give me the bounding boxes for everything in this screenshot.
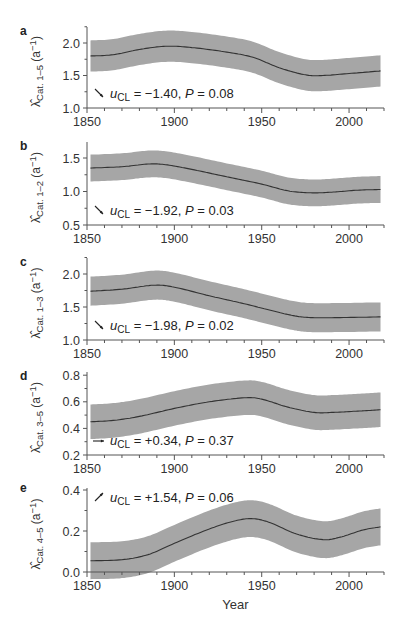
- trend-annotation: uCL = −1.92, P = 0.03: [95, 203, 234, 220]
- panel-c: 1.01.52.01850190019502000λ̂Cat. 1–3 (a−1…: [20, 255, 384, 361]
- x-tick-label: 1900: [160, 347, 188, 361]
- svg-text:uCL = +1.54, P = 0.06: uCL = +1.54, P = 0.06: [110, 490, 234, 507]
- x-tick-label: 1850: [73, 232, 101, 246]
- y-tick-label: 1.0: [63, 185, 80, 199]
- x-tick-label: 1900: [160, 579, 188, 593]
- confidence-band: [91, 31, 381, 92]
- panel-e: 0.00.20.41850190019502000λ̂Cat. 4–5 (a−1…: [20, 481, 384, 593]
- figure: 1.01.52.01850190019502000λ̂Cat. 1–5 (a−1…: [0, 0, 403, 631]
- x-tick-label: 1950: [248, 115, 276, 129]
- x-tick-label: 1850: [73, 579, 101, 593]
- x-tick-label: 1850: [73, 462, 101, 476]
- svg-text:uCL = −1.92, P = 0.03: uCL = −1.92, P = 0.03: [110, 203, 234, 220]
- y-axis-label: λ̂Cat. 1–2 (a−1): [27, 152, 45, 223]
- x-axis-title: Year: [222, 597, 249, 612]
- trend-annotation: uCL = +0.34, P = 0.37: [93, 433, 234, 450]
- y-tick-label: 0.4: [63, 484, 80, 498]
- panel-b: 0.51.01.51850190019502000λ̂Cat. 1–2 (a−1…: [20, 139, 384, 246]
- y-tick-label: 0.5: [63, 219, 80, 233]
- x-tick-label: 2000: [335, 579, 363, 593]
- panel-letter: d: [20, 369, 27, 383]
- y-tick-label: 1.5: [63, 301, 80, 315]
- y-tick-label: 0.2: [63, 449, 80, 463]
- panel-letter: e: [20, 481, 27, 495]
- confidence-band: [91, 500, 381, 579]
- y-tick-label: 1.5: [63, 152, 80, 166]
- y-tick-label: 0.6: [63, 395, 80, 409]
- x-tick-label: 2000: [335, 115, 363, 129]
- y-tick-label: 0.0: [63, 566, 80, 580]
- x-tick-label: 1950: [248, 462, 276, 476]
- y-tick-label: 2.0: [63, 268, 80, 282]
- x-tick-label: 1950: [248, 347, 276, 361]
- panel-d: 0.20.40.60.81850190019502000λ̂Cat. 3–5 (…: [20, 369, 384, 476]
- y-tick-label: 1.5: [63, 69, 80, 83]
- panel-letter: a: [20, 24, 27, 38]
- y-axis-label: λ̂Cat. 1–5 (a−1): [27, 36, 45, 107]
- y-tick-label: 1.0: [63, 102, 80, 116]
- y-tick-label: 0.2: [63, 525, 80, 539]
- trend-annotation: uCL = −1.98, P = 0.02: [95, 318, 234, 335]
- x-tick-label: 2000: [335, 347, 363, 361]
- y-tick-label: 2.0: [63, 37, 80, 51]
- panel-letter: b: [20, 139, 27, 153]
- trend-annotation: uCL = −1.40, P = 0.08: [95, 86, 234, 103]
- x-tick-label: 1900: [160, 232, 188, 246]
- y-tick-label: 0.4: [63, 422, 80, 436]
- x-tick-label: 1900: [160, 462, 188, 476]
- panel-letter: c: [20, 255, 27, 269]
- y-axis-label: λ̂Cat. 4–5 (a−1): [27, 499, 45, 570]
- svg-text:uCL = −1.40, P = 0.08: uCL = −1.40, P = 0.08: [110, 86, 234, 103]
- x-tick-label: 2000: [335, 462, 363, 476]
- x-tick-label: 2000: [335, 232, 363, 246]
- y-axis-label: λ̂Cat. 1–3 (a−1): [27, 268, 45, 339]
- x-tick-label: 1850: [73, 115, 101, 129]
- y-axis-label: λ̂Cat. 3–5 (a−1): [27, 382, 45, 453]
- confidence-band: [91, 380, 381, 439]
- x-tick-label: 1950: [248, 232, 276, 246]
- panel-a: 1.01.52.01850190019502000λ̂Cat. 1–5 (a−1…: [20, 24, 384, 129]
- y-tick-label: 0.8: [63, 369, 80, 383]
- x-tick-label: 1900: [160, 115, 188, 129]
- svg-text:uCL = −1.98, P = 0.02: uCL = −1.98, P = 0.02: [110, 318, 234, 335]
- trend-annotation: uCL = +1.54, P = 0.06: [95, 490, 234, 507]
- x-tick-label: 1850: [73, 347, 101, 361]
- y-tick-label: 1.0: [63, 334, 80, 348]
- x-tick-label: 1950: [248, 579, 276, 593]
